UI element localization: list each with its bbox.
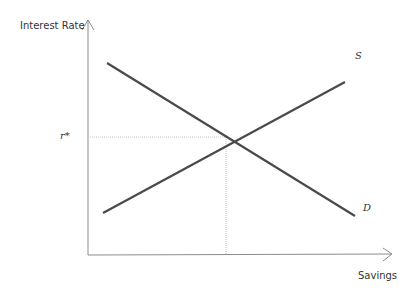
y-axis-label: Interest Rate bbox=[20, 20, 85, 31]
diagram-canvas bbox=[0, 0, 407, 293]
demand-curve bbox=[107, 63, 355, 216]
supply-curve bbox=[103, 82, 345, 213]
demand-curve-label: D bbox=[363, 202, 371, 213]
equilibrium-rate-label: r* bbox=[60, 130, 70, 141]
x-axis-label: Savings bbox=[358, 270, 397, 281]
supply-curve-label: S bbox=[355, 50, 362, 61]
x-axis bbox=[88, 254, 392, 255]
